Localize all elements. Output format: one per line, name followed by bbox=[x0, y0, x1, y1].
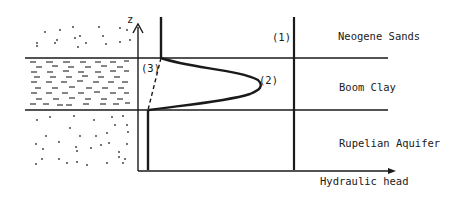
curve-3-label: (3) bbox=[141, 63, 160, 74]
layer-boom-clay: Boom Clay bbox=[339, 82, 396, 93]
head-axis-label: Hydraulic head bbox=[320, 176, 409, 187]
curve-2 bbox=[149, 58, 261, 110]
curve-2-label: (2) bbox=[259, 75, 278, 86]
head-axis-arrow-icon bbox=[388, 168, 396, 174]
curve-1-label: (1) bbox=[272, 32, 291, 43]
sand-texture-top bbox=[36, 26, 131, 48]
clay-texture bbox=[30, 61, 130, 105]
z-axis-label: z bbox=[127, 14, 133, 25]
layer-rupelian-aquifer: Rupelian Aquifer bbox=[339, 138, 440, 149]
layer-neogene-sands: Neogene Sands bbox=[338, 31, 420, 42]
sand-texture-bottom bbox=[35, 115, 129, 166]
